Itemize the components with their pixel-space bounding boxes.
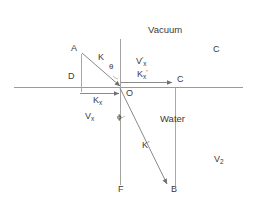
diagram-lines [0, 0, 255, 204]
theta-arc [113, 76, 118, 79]
point-label-c: C [177, 75, 184, 84]
kx-prime-mark: ' [146, 69, 147, 76]
medium-label-water: Water [160, 114, 185, 124]
point-label-c-far: C [213, 45, 220, 54]
vector-label-vx-prime: V'x [136, 56, 147, 68]
point-label-f: F [118, 185, 124, 194]
vector-label-k: K [98, 53, 104, 62]
point-label-b: B [171, 185, 177, 194]
point-label-d: D [68, 72, 75, 81]
vx-prime-sub: x [143, 60, 146, 67]
medium-label-vacuum: Vacuum [148, 25, 182, 35]
vector-label-k-prime: K' [142, 140, 149, 150]
point-label-a: A [71, 44, 77, 53]
angle-label-phi: ϕ [117, 113, 121, 121]
point-label-o: O [126, 89, 133, 98]
angle-label-theta: θ [109, 63, 113, 71]
refracted-ray [120, 88, 167, 184]
vector-label-kx-prime: Kx' [137, 69, 148, 81]
vector-label-vx: Vx [85, 112, 94, 122]
v2-sub: 2 [220, 158, 224, 165]
label-v2: V2 [214, 155, 224, 165]
k-prime-mark: ' [148, 140, 149, 147]
kx-sub: x [99, 99, 102, 106]
vector-label-kx: Kx [93, 96, 102, 106]
refraction-diagram: Vacuum Water A D O C F B C K K' θ ϕ Kx V… [0, 0, 255, 204]
vx-sub: x [91, 115, 94, 122]
